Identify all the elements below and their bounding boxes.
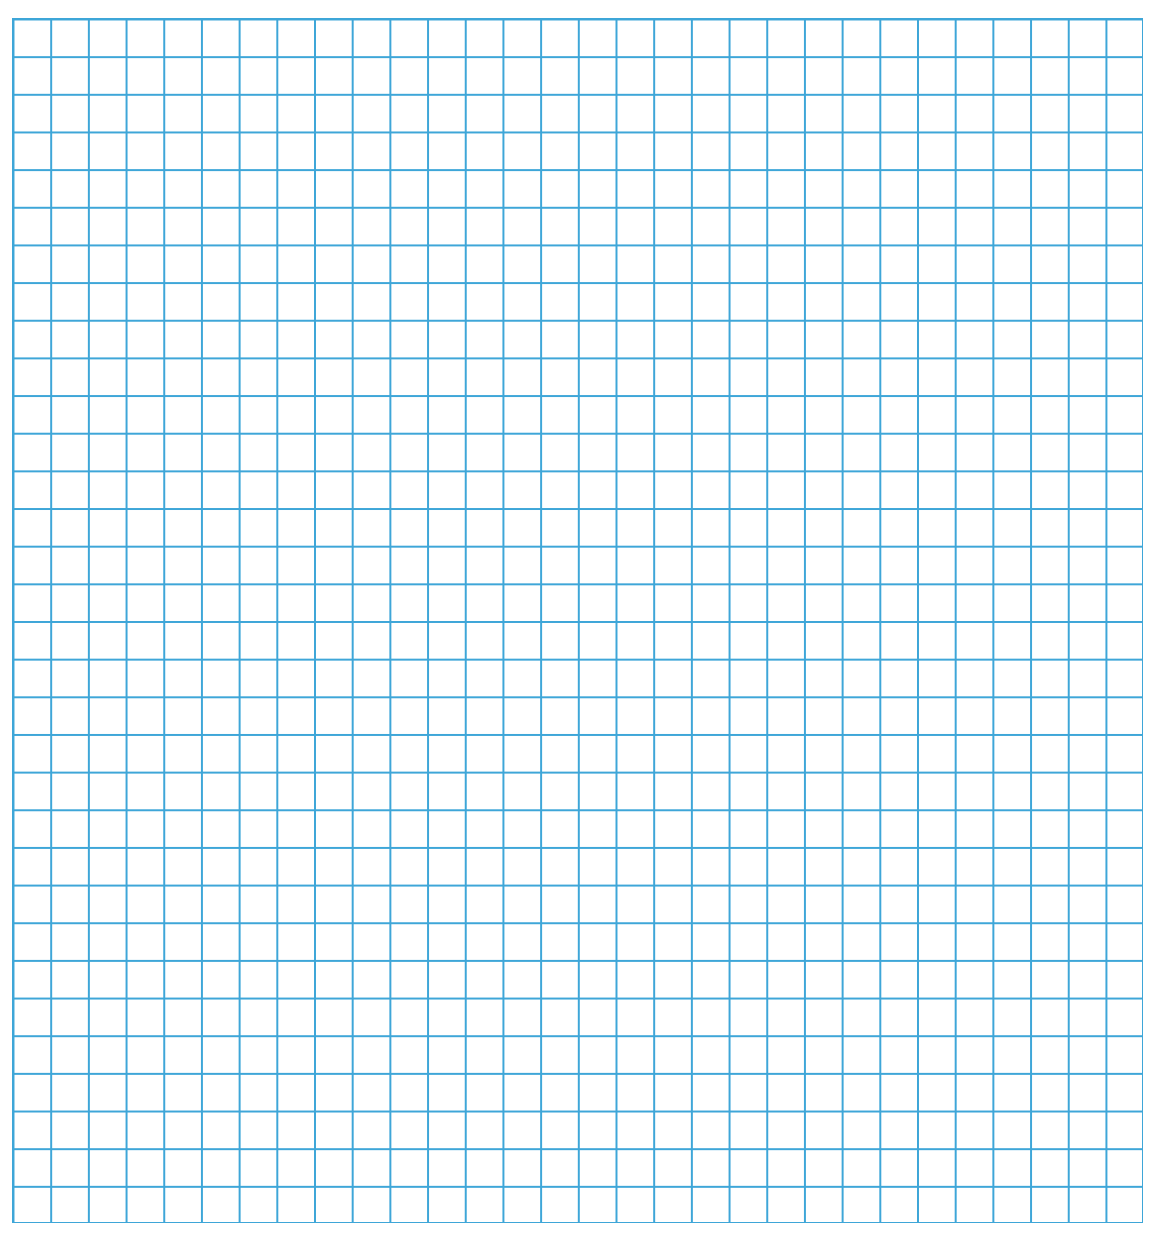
graph-paper-grid — [12, 18, 1143, 1223]
